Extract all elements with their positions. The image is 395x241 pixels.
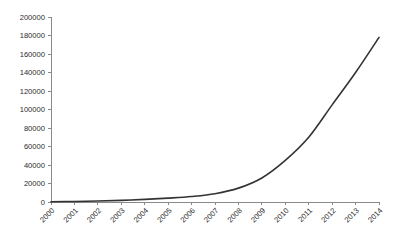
y-axis-tick-label: 200000 [20, 13, 45, 22]
y-axis-tick-label: 80000 [24, 124, 45, 133]
y-axis-tick-label: 140000 [20, 68, 45, 77]
chart-canvas: 0200004000060000800001000001200001400001… [0, 0, 395, 241]
y-axis-tick-label: 60000 [24, 142, 45, 151]
y-axis-tick-label: 40000 [24, 161, 45, 170]
y-axis-tick-label: 180000 [20, 31, 45, 40]
chart-background [0, 0, 395, 241]
line-chart: 0200004000060000800001000001200001400001… [0, 0, 395, 241]
y-axis-tick-label: 100000 [20, 105, 45, 114]
y-axis-tick-label: 20000 [24, 179, 45, 188]
y-axis-tick-label: 120000 [20, 87, 45, 96]
y-axis-tick-label: 160000 [20, 50, 45, 59]
y-axis-tick-label: 0 [41, 198, 45, 207]
